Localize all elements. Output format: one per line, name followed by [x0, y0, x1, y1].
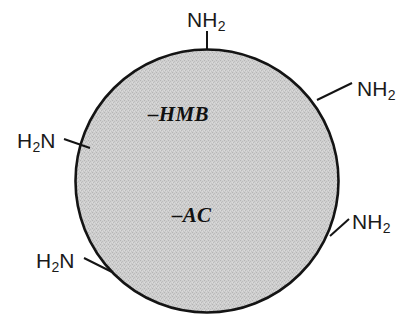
amine-label-lower-right: NH2	[352, 211, 391, 232]
bead-diagram-canvas	[0, 0, 413, 328]
amine-element-left: N	[40, 129, 55, 152]
amine-label-left: H2N	[17, 130, 56, 151]
amine-label-upper-right: NH2	[357, 78, 396, 99]
bond-tick-upper-right	[317, 83, 352, 100]
linker-label-hmb: –HMB	[148, 104, 209, 125]
bead-circle	[76, 50, 339, 313]
amine-subscript-left: 2	[32, 139, 40, 155]
amine-label-lower-left: H2N	[36, 250, 75, 271]
amine-subscript-lower-left: 2	[51, 259, 59, 275]
amine-subscript-upper-right: 2	[388, 87, 396, 103]
amine-element-upper-right: NH	[357, 77, 388, 100]
amine-element-top: NH	[187, 8, 218, 31]
amine-label-top: NH2	[187, 9, 226, 30]
amine-subscript-top: 2	[218, 18, 226, 34]
amine-subscript-lower-right: 2	[383, 220, 391, 236]
amine-element-lower-left: N	[59, 249, 74, 272]
amine-hydrogen-left: H	[17, 129, 32, 152]
figure-root: { "figure": { "kind": "chemical-structur…	[0, 0, 413, 328]
amine-hydrogen-lower-left: H	[36, 249, 51, 272]
amine-element-lower-right: NH	[352, 210, 383, 233]
linker-label-ac: –AC	[172, 205, 211, 226]
